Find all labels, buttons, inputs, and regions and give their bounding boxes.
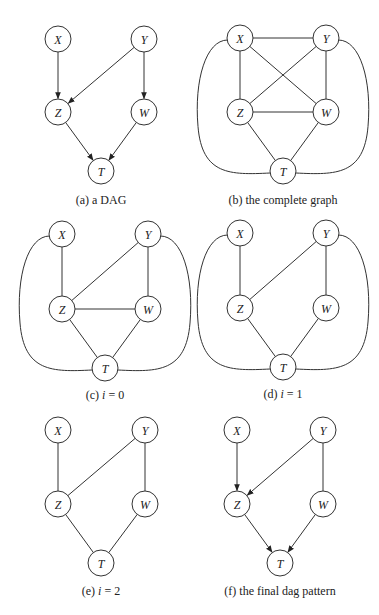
node-t: T: [270, 158, 296, 184]
node-t: T: [270, 354, 296, 380]
caption-d: (d) i = 1: [263, 387, 302, 401]
node-x: X: [227, 220, 253, 246]
node-label: W: [321, 302, 332, 316]
node-label: W: [139, 106, 150, 120]
edge-w-t: [291, 319, 319, 357]
edge-z-t: [245, 515, 272, 553]
edge-z-t: [248, 319, 276, 357]
node-label: W: [318, 498, 329, 512]
node-label: Z: [237, 106, 244, 120]
edge-y-z: [247, 438, 313, 495]
node-label: W: [143, 303, 154, 317]
caption-c: (c) i = 0: [86, 388, 124, 402]
node-y: Y: [131, 26, 157, 52]
edge-w-t: [109, 514, 137, 552]
edge-y-z: [250, 242, 316, 300]
node-w: W: [135, 296, 161, 322]
node-w: W: [131, 99, 157, 125]
node-z: Z: [49, 296, 75, 322]
node-label: X: [57, 228, 66, 242]
node-w: W: [313, 99, 339, 125]
node-x: X: [45, 417, 71, 443]
edge-z-t: [248, 123, 276, 161]
node-t: T: [88, 550, 114, 576]
node-w: W: [132, 491, 158, 517]
node-z: Z: [45, 491, 71, 517]
caption-b: (b) the complete graph: [229, 193, 338, 207]
panel-c: XYZWT(c) i = 0: [19, 221, 191, 402]
node-label: X: [232, 424, 241, 438]
node-x: X: [224, 417, 250, 443]
node-label: W: [140, 498, 151, 512]
node-label: Z: [55, 498, 62, 512]
edge-w-t: [291, 123, 319, 161]
node-y: Y: [310, 417, 336, 443]
edge-y-z: [68, 47, 134, 103]
node-x: X: [45, 26, 71, 52]
node-y: Y: [313, 220, 339, 246]
node-label: X: [235, 227, 244, 241]
node-y: Y: [313, 25, 339, 51]
node-z: Z: [224, 491, 250, 517]
node-z: Z: [227, 295, 253, 321]
node-label: W: [321, 106, 332, 120]
node-t: T: [267, 550, 293, 576]
node-w: W: [313, 295, 339, 321]
panel-a: XYZWT(a) a DAG: [45, 26, 157, 207]
node-z: Z: [45, 99, 71, 125]
node-label: Z: [237, 302, 244, 316]
edge-w-t: [113, 320, 141, 358]
node-label: X: [235, 32, 244, 46]
node-y: Y: [135, 221, 161, 247]
panel-e: XYZWT(e) i = 2: [45, 417, 158, 598]
edge-z-t: [66, 515, 94, 553]
node-label: X: [53, 33, 62, 47]
node-y: Y: [132, 417, 158, 443]
panels: XYZWT(a) a DAGXYZWT(b) the complete grap…: [19, 25, 369, 598]
panel-d: XYZWT(d) i = 1: [197, 220, 369, 401]
figure-canvas: XYZWT(a) a DAGXYZWT(b) the complete grap…: [0, 0, 379, 615]
node-x: X: [227, 25, 253, 51]
caption-f: (f) the final dag pattern: [224, 584, 335, 598]
node-label: Z: [55, 106, 62, 120]
caption-e: (e) i = 2: [82, 584, 120, 598]
edge-w-t: [109, 123, 136, 161]
node-label: Z: [59, 303, 66, 317]
node-z: Z: [227, 99, 253, 125]
edge-y-z: [68, 438, 135, 495]
caption-a: (a) a DAG: [76, 193, 127, 207]
edge-z-t: [70, 320, 98, 358]
node-label: X: [53, 424, 62, 438]
edge-w-t: [288, 515, 315, 553]
node-t: T: [88, 158, 114, 184]
node-t: T: [92, 355, 118, 381]
panel-f: XYZWT(f) the final dag pattern: [224, 417, 336, 598]
edge-y-z: [72, 243, 138, 301]
panel-b: XYZWT(b) the complete graph: [197, 25, 369, 207]
node-label: Z: [234, 498, 241, 512]
node-w: W: [310, 491, 336, 517]
node-x: X: [49, 221, 75, 247]
edge-z-t: [66, 123, 93, 161]
